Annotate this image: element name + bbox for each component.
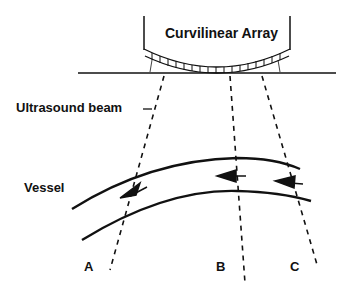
vessel-walls xyxy=(72,158,311,240)
vessel-label: Vessel xyxy=(24,180,65,195)
beam-label-B: B xyxy=(216,259,225,274)
beam-label-A: A xyxy=(84,259,93,274)
diagram-canvas: Curvilinear Array Ultrasound beam Vessel… xyxy=(0,0,340,291)
beam-label-C: C xyxy=(290,259,299,274)
flow-arrow-B xyxy=(217,170,236,182)
vessel-upper-wall xyxy=(72,158,300,209)
flow-arrow-A xyxy=(120,183,140,198)
curvilinear-array xyxy=(144,49,290,73)
vessel-lower-wall xyxy=(82,191,311,240)
flow-arrow-C xyxy=(275,176,295,188)
array-element-dividers xyxy=(152,53,280,73)
beam-C-line xyxy=(262,76,318,268)
diagram-graphics xyxy=(0,0,340,291)
ultrasound-beam-label: Ultrasound beam xyxy=(16,100,122,115)
array-title: Curvilinear Array xyxy=(165,25,278,41)
